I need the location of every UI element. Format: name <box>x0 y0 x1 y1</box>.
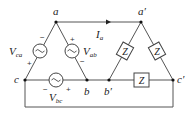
current-label: Ia <box>95 28 104 42</box>
label-bprime: b′ <box>104 85 113 97</box>
vbc-plus: + <box>66 85 71 94</box>
label-cprime: c′ <box>177 73 185 85</box>
label-c: c <box>14 73 19 85</box>
source-vab: + − Vab <box>65 35 97 66</box>
label-aprime: a′ <box>138 5 147 17</box>
impedance-bprime-cprime: Z <box>134 73 149 87</box>
node-b <box>85 78 88 81</box>
source-vca: − + Vca <box>9 33 47 68</box>
label-a: a <box>53 5 59 17</box>
delta-delta-circuit: − + Vca + − Vab − + Vbc Z Z Z a c b a′ b… <box>0 0 195 117</box>
node-cprime <box>171 78 174 81</box>
vbc-label: Vbc <box>49 91 63 105</box>
impedance-aprime-cprime: Z <box>148 42 165 60</box>
vab-minus: − <box>80 57 85 66</box>
vab-label: Vab <box>83 45 97 59</box>
label-b: b <box>84 85 90 97</box>
current-arrow-icon <box>106 20 111 25</box>
z-label: Z <box>122 46 128 57</box>
vbc-minus: − <box>43 85 48 94</box>
node-bprime <box>107 78 110 81</box>
z-label: Z <box>139 75 145 86</box>
impedance-aprime-bprime: Z <box>116 42 133 60</box>
z-label: Z <box>154 46 160 57</box>
source-vbc: − + Vbc <box>43 73 71 105</box>
vca-label: Vca <box>9 45 23 59</box>
node-a <box>54 20 57 23</box>
vca-minus: − <box>40 33 45 42</box>
vca-plus: + <box>27 59 32 68</box>
vab-plus: + <box>70 35 75 44</box>
node-c <box>23 78 26 81</box>
node-aprime <box>139 20 142 23</box>
